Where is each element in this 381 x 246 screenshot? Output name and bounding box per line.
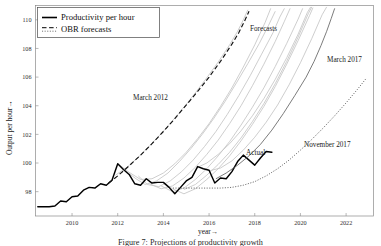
y-tick-label: 102 [22,131,31,138]
x-tick-label: 2020 [294,219,306,226]
november-2017-label: November 2017 [304,141,351,149]
y-tick-label: 106 [22,73,31,80]
march-2012-label: March 2012 [133,94,168,102]
x-axis-title: year→ [198,227,218,236]
y-tick-label: 108 [22,45,31,52]
forecasts-label: Forecasts [250,25,277,33]
x-tick-label: 2014 [157,219,169,226]
y-tick-label: 100 [22,159,31,166]
chart-legend: Productivity per hour OBR forecasts [38,8,160,38]
y-tick-label: 104 [22,102,31,109]
actual-label: Actual [246,149,265,157]
x-tick-label: 2022 [340,219,352,226]
y-axis-title: Output per hour→ [5,100,14,155]
figure-caption: Figure 7: Projections of productivity gr… [0,237,381,246]
x-tick-label: 2016 [203,219,215,226]
y-tick-label: 110 [22,16,31,23]
march-2017-label: March 2017 [327,56,362,64]
legend-label-obr: OBR forecasts [61,24,112,34]
y-tick-label: 98 [25,188,31,195]
x-tick-label: 2018 [249,219,261,226]
legend-label-productivity: Productivity per hour [61,12,135,22]
x-tick-label: 2010 [66,219,78,226]
x-tick-label: 2012 [112,219,124,226]
